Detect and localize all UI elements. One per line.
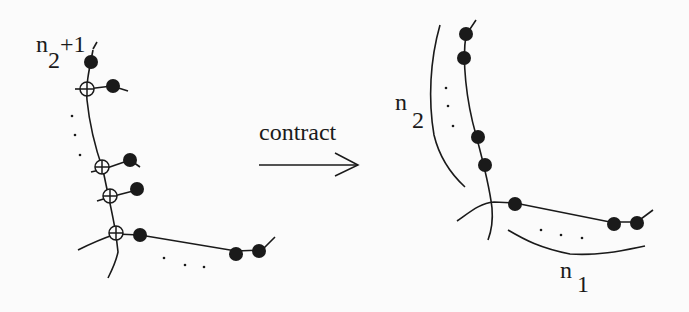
left-label-suffix: +1 [60, 31, 86, 57]
crossed-circle-icon [103, 189, 117, 203]
left-label-sub: 2 [48, 47, 60, 73]
n1-brace-curve [508, 230, 645, 254]
n2-label-base: n [395, 89, 407, 115]
right-base-edge [457, 202, 653, 222]
filled-node-icon [508, 197, 522, 211]
filled-node-icon [84, 55, 98, 69]
n1-label-sub: 1 [577, 271, 589, 297]
n2-label-sub: 2 [412, 107, 424, 133]
left-base-edge [78, 234, 275, 251]
crossed-circle-icon [109, 226, 123, 240]
contraction-diagram: n 2 +1 contract n 2 n 1 [0, 0, 689, 312]
filled-node-icon [630, 216, 644, 230]
filled-node-icon [133, 228, 147, 242]
filled-node-icon [607, 217, 621, 231]
n1-label-base: n [560, 257, 572, 283]
crossed-circle-icon [80, 82, 94, 96]
filled-node-icon [123, 153, 137, 167]
crossed-circle-icon [95, 160, 109, 174]
arrow-label: contract [259, 119, 337, 145]
filled-node-icon [130, 182, 144, 196]
filled-node-icon [252, 244, 266, 258]
filled-node-icon [471, 130, 485, 144]
left-label-base: n [36, 31, 48, 57]
filled-node-icon [106, 79, 120, 93]
filled-node-icon [229, 247, 243, 261]
filled-node-icon [457, 51, 471, 65]
filled-node-icon [478, 158, 492, 172]
filled-node-icon [459, 27, 473, 41]
arrow-right-icon [259, 153, 358, 176]
